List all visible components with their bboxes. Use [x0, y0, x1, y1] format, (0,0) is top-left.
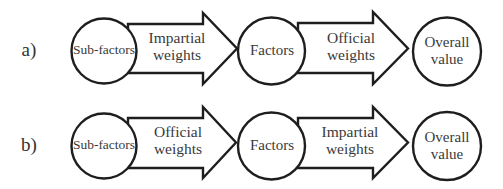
- node-label-overall-value: Overall value: [415, 129, 479, 163]
- edge-label-official-weights: Official weights: [318, 30, 384, 63]
- row-label-a: a): [16, 40, 42, 59]
- row-label-b: b): [16, 135, 42, 154]
- edge-label-line: Impartial: [313, 124, 387, 141]
- edge-label-line: weights: [318, 47, 384, 64]
- edge-label-line: Official: [318, 30, 384, 47]
- edge-label-official-weights: Official weights: [145, 124, 211, 157]
- node-label-line: Overall: [415, 129, 479, 146]
- node-label-sub-factors: Sub-factors: [72, 43, 136, 57]
- edge-label-impartial-weights: Impartial weights: [313, 124, 387, 157]
- edge-label-line: Official: [145, 124, 211, 141]
- edge-label-line: weights: [140, 47, 214, 64]
- weighting-flow-diagram: a) Sub-factors Impartial weights Factors…: [0, 0, 503, 189]
- node-label-line: value: [415, 51, 479, 68]
- node-label-overall-value: Overall value: [415, 34, 479, 68]
- node-label-sub-factors: Sub-factors: [72, 138, 136, 152]
- edge-label-line: weights: [145, 141, 211, 158]
- edge-label-line: Impartial: [140, 30, 214, 47]
- node-label-factors: Factors: [240, 43, 304, 58]
- node-label-line: value: [415, 146, 479, 163]
- edge-label-line: weights: [313, 141, 387, 158]
- node-label-factors: Factors: [240, 138, 304, 153]
- edge-label-impartial-weights: Impartial weights: [140, 30, 214, 63]
- node-label-line: Overall: [415, 34, 479, 51]
